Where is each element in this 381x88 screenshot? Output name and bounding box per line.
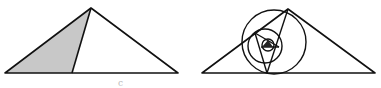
right-figure	[202, 9, 375, 74]
cevian-1	[267, 9, 288, 73]
left-figure	[5, 8, 178, 73]
outer-triangle-right	[202, 9, 375, 73]
diagram-canvas	[0, 0, 381, 88]
figure-caption: c	[118, 78, 123, 88]
